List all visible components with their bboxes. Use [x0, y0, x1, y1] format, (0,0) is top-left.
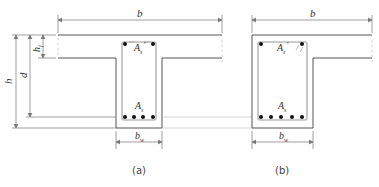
flange-width-label-b: b — [310, 7, 316, 19]
caption-b: (b) — [275, 165, 289, 176]
beam-sections-diagram: b As' As — [0, 0, 379, 187]
panel-b-l-beam: b As' As — [252, 7, 372, 176]
tension-bars-b — [259, 115, 304, 119]
web-width-label-b: bw — [279, 130, 288, 143]
panel-a-t-beam: b As' As — [58, 7, 222, 176]
caption-a: (a) — [132, 165, 146, 176]
compression-steel-label-a: As' — [133, 41, 145, 55]
web-width-label-a: bw — [135, 130, 144, 143]
effective-depth-label: d — [17, 72, 29, 78]
tension-steel-label-b: As — [277, 100, 287, 113]
vertical-dimensions — [12, 35, 116, 128]
l-beam-outline — [252, 35, 372, 128]
flange-thickness-label: hf — [31, 44, 44, 52]
total-height-label: h — [2, 78, 14, 84]
compression-steel-label-b: As' — [276, 41, 288, 55]
flange-width-label-a: b — [137, 7, 143, 19]
tension-steel-label-a: As — [134, 100, 144, 113]
tension-bars-a — [123, 115, 155, 119]
